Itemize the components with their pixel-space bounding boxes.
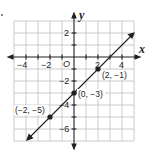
y-tick-label: −6 [59, 124, 69, 134]
x-axis-label: x [138, 42, 145, 56]
x-tick-label: −4 [17, 60, 27, 70]
point-label: (0, −3) [78, 89, 103, 99]
bullet-dot [1, 14, 3, 16]
line-graph [27, 33, 134, 140]
y-axis-label: y [77, 8, 85, 22]
y-tick-label: 2 [64, 28, 69, 38]
y-tick-label: −2 [59, 76, 69, 86]
point-label: (−2, −5) [15, 105, 45, 115]
point-label: (2, −1) [102, 70, 127, 80]
x-tick-label: −2 [41, 60, 51, 70]
origin-label: O [63, 59, 70, 69]
y-tick-label: −4 [59, 100, 69, 110]
point-0-neg3 [71, 90, 76, 95]
y-axis [72, 13, 77, 149]
coordinate-plane: y x O −4 −2 2 4 2 −2 −4 −6 (2, −1) (0, −… [0, 0, 148, 152]
x-tick-label: 4 [119, 60, 124, 70]
point-neg2-neg5 [47, 114, 52, 119]
point-2-neg1 [95, 66, 100, 71]
